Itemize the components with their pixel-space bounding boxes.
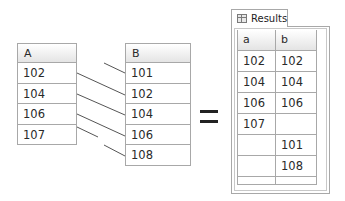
connector-unmatched-b-108 <box>104 145 125 156</box>
results-cell-b[interactable]: 102 <box>276 51 317 72</box>
results-row: 106 106 <box>237 93 317 114</box>
results-filler-cell <box>237 177 276 185</box>
column-header-b[interactable]: b <box>276 30 317 51</box>
results-filler-row <box>237 177 317 185</box>
table-b-row: 101 <box>125 63 191 84</box>
results-tab-label: Results <box>251 10 287 27</box>
results-filler-cell <box>276 177 317 185</box>
results-tab[interactable]: Results <box>231 9 288 27</box>
connector-102 <box>77 73 125 95</box>
table-a-row: 104 <box>17 84 77 105</box>
table-b-header: B <box>125 43 191 63</box>
connector-unmatched-a-107 <box>77 127 98 137</box>
results-cell-b[interactable] <box>276 114 317 135</box>
results-row: 102 102 <box>237 51 317 72</box>
table-b-row: 104 <box>125 104 191 125</box>
equals-bar-bottom <box>200 120 218 123</box>
results-grid: a b 102 102 104 104 106 106 107 101 <box>237 30 317 185</box>
grid-icon <box>237 14 247 23</box>
table-b: B 101 102 104 106 108 <box>125 43 191 166</box>
results-cell-a[interactable] <box>237 156 276 177</box>
results-cell-a[interactable]: 104 <box>237 72 276 93</box>
results-row: 107 <box>237 114 317 135</box>
table-b-row: 102 <box>125 84 191 105</box>
results-cell-b[interactable]: 106 <box>276 93 317 114</box>
results-cell-b[interactable]: 101 <box>276 135 317 156</box>
connector-unmatched-b-101 <box>104 63 125 73</box>
results-cell-b[interactable]: 108 <box>276 156 317 177</box>
connector-104 <box>77 94 125 115</box>
results-cell-b[interactable]: 104 <box>276 72 317 93</box>
results-cell-a[interactable] <box>237 135 276 156</box>
results-row: 101 <box>237 135 317 156</box>
column-header-a[interactable]: a <box>237 30 276 51</box>
results-cell-a[interactable]: 107 <box>237 114 276 135</box>
results-row: 108 <box>237 156 317 177</box>
table-a-header: A <box>17 43 77 63</box>
results-row: 104 104 <box>237 72 317 93</box>
table-a: A 102 104 106 107 <box>17 43 77 145</box>
results-cell-a[interactable]: 106 <box>237 93 276 114</box>
table-b-row: 106 <box>125 125 191 146</box>
results-inner-frame: a b 102 102 104 104 106 106 107 101 <box>234 28 327 191</box>
table-b-row: 108 <box>125 145 191 166</box>
results-cell-a[interactable]: 102 <box>237 51 276 72</box>
table-a-row: 107 <box>17 125 77 146</box>
connector-106 <box>77 114 125 136</box>
results-panel: a b 102 102 104 104 106 106 107 101 <box>231 26 330 194</box>
table-a-row: 102 <box>17 63 77 84</box>
table-a-row: 106 <box>17 104 77 125</box>
results-header-row: a b <box>237 30 317 51</box>
equals-bar-top <box>200 110 218 113</box>
